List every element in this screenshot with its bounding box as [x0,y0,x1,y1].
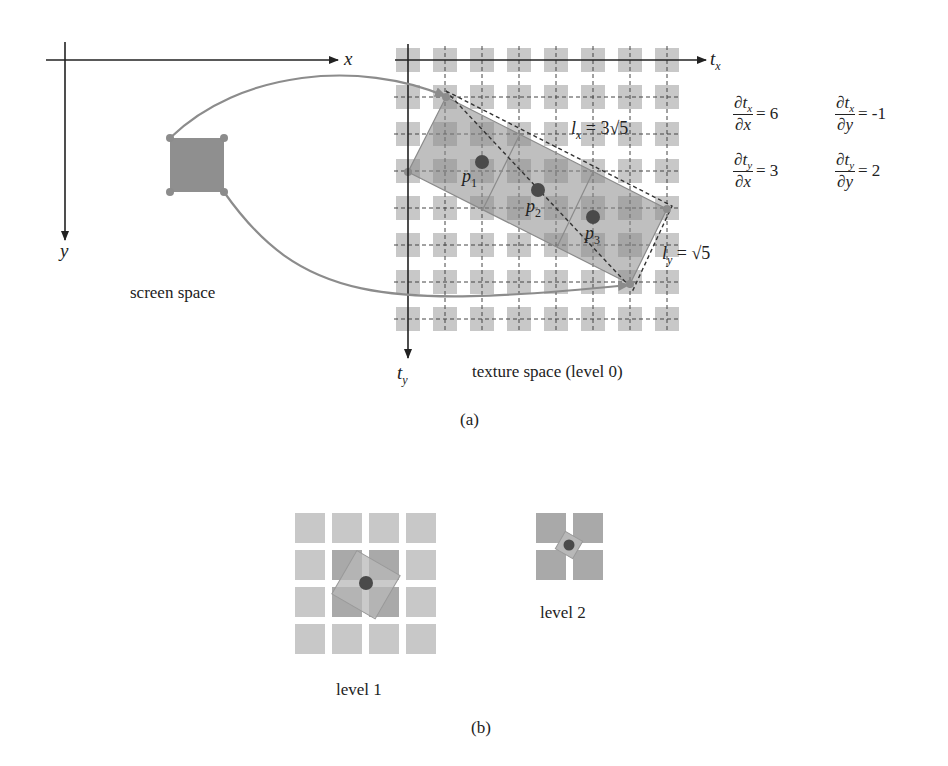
level2-label: level 2 [540,603,586,623]
derivative-dty-dx: ∂ty ∂x = 3 [733,150,778,192]
ly-label: ly = √5 [662,243,710,268]
derivative-dtx-dx: ∂tx ∂x = 6 [733,93,778,135]
derivative-dty-dy: ∂ty ∂y = 2 [835,150,880,192]
screen-y-axis-label: y [60,240,68,262]
texture-y-axis-label: ty [397,362,408,388]
screen-x-axis-label: x [344,48,352,70]
texture-space-label: texture space (level 0) [472,362,623,382]
level1-label: level 1 [336,680,382,700]
point-label-p1: p1 [462,166,477,191]
texture-x-axis-label: tx [710,48,721,74]
caption-a: (a) [460,410,479,430]
point-label-p2: p2 [526,196,541,221]
point-label-p3: p3 [585,223,600,248]
screen-space-label: screen space [130,283,215,303]
lx-label: lx = 3√5 [571,118,628,143]
derivative-dtx-dy: ∂tx ∂y = -1 [835,93,886,135]
caption-b: (b) [471,718,491,738]
